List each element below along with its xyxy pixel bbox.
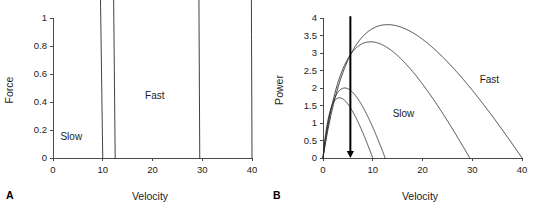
curve-label-slow: Slow xyxy=(60,131,82,142)
y-tick-label: 0 xyxy=(312,152,317,163)
y-tick-label: 0.2 xyxy=(34,124,47,135)
y-tick-label: 1.5 xyxy=(304,100,317,111)
panel-a-y-tick-labels: 00.20.40.60.81 xyxy=(34,12,47,163)
x-tick-label: 0 xyxy=(50,164,55,175)
panel-b-curve-labels: FastSlow xyxy=(393,74,500,119)
y-tick-label: 3 xyxy=(312,47,317,58)
curve-fast-1 xyxy=(323,42,470,158)
curve-fast-2 xyxy=(323,25,522,158)
y-tick-label: 0.5 xyxy=(304,135,317,146)
curve-label-fast: Fast xyxy=(145,90,165,101)
y-tick-label: 1 xyxy=(42,12,47,23)
panel-a-y-axis-title: Force xyxy=(3,76,15,103)
arrow-head xyxy=(347,151,354,158)
y-tick-label: 4 xyxy=(312,12,317,23)
x-tick-label: 30 xyxy=(467,164,478,175)
curve-label-fast: Fast xyxy=(480,74,500,85)
panel-a-x-tick-labels: 010203040 xyxy=(50,164,257,175)
panel-b-power-velocity: 00.511.522.533.54 010203040 FastSlow Vel… xyxy=(270,0,540,211)
panel-a-curve-labels: FastSlow xyxy=(60,90,164,142)
panel-a-letter: A xyxy=(6,189,14,201)
x-tick-label: 10 xyxy=(367,164,378,175)
panel-b-y-tick-labels: 00.511.522.533.54 xyxy=(304,12,317,163)
x-tick-label: 20 xyxy=(417,164,428,175)
y-tick-label: 0.4 xyxy=(34,96,47,107)
x-tick-label: 40 xyxy=(517,164,528,175)
y-tick-label: 0 xyxy=(42,152,47,163)
x-tick-label: 40 xyxy=(247,164,258,175)
x-tick-label: 10 xyxy=(97,164,108,175)
x-tick-label: 0 xyxy=(320,164,325,175)
panel-b-curves xyxy=(323,25,522,158)
y-tick-label: 0.8 xyxy=(34,40,47,51)
panel-b-y-axis-title: Power xyxy=(273,75,285,105)
y-tick-label: 2.5 xyxy=(304,65,317,76)
panel-b-x-axis-title: Velocity xyxy=(402,190,439,202)
panel-a-x-axis-title: Velocity xyxy=(132,190,169,202)
panel-b-x-tick-labels: 010203040 xyxy=(320,164,527,175)
x-tick-label: 30 xyxy=(197,164,208,175)
panel-a-force-velocity: 00.20.40.60.81 010203040 FastSlow Veloci… xyxy=(0,0,270,211)
y-tick-label: 2 xyxy=(312,82,317,93)
panel-b-plot: 00.511.522.533.54 010203040 FastSlow Vel… xyxy=(270,0,540,211)
panel-a-plot: 00.20.40.60.81 010203040 FastSlow Veloci… xyxy=(0,0,270,211)
figure-container: 00.20.40.60.81 010203040 FastSlow Veloci… xyxy=(0,0,540,211)
curve-label-slow: Slow xyxy=(393,108,415,119)
y-tick-label: 1 xyxy=(312,117,317,128)
panel-b-letter: B xyxy=(273,189,281,201)
y-tick-label: 0.6 xyxy=(34,68,47,79)
panel-a-curves xyxy=(53,0,252,158)
panel-b-velocity-marker-arrow xyxy=(347,16,354,158)
curve-slow-1 xyxy=(323,98,373,158)
y-tick-label: 3.5 xyxy=(304,30,317,41)
curve-slow-2 xyxy=(323,88,385,158)
x-tick-label: 20 xyxy=(147,164,158,175)
curve-fast-2 xyxy=(53,0,252,158)
